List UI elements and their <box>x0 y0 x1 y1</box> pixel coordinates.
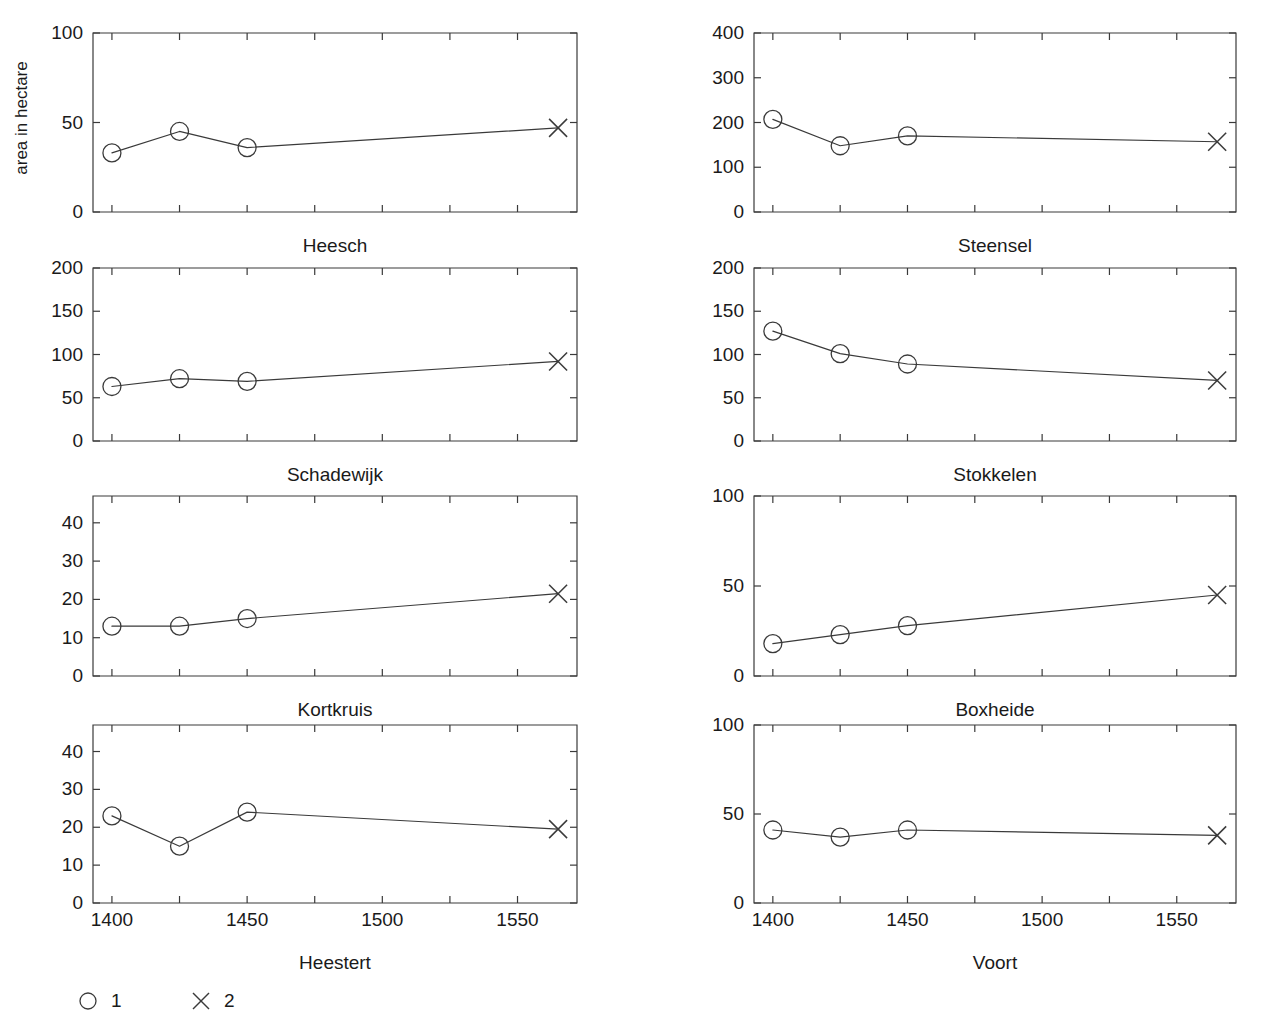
x-tick-label: 1550 <box>1156 909 1198 930</box>
y-tick-label: 40 <box>62 512 83 533</box>
x-tick-label: 1400 <box>91 909 133 930</box>
panel-title-heesch: Heesch <box>303 235 367 256</box>
y-tick-label: 50 <box>723 575 744 596</box>
series-line-1 <box>773 595 1217 644</box>
x-tick-label: 1550 <box>496 909 538 930</box>
y-tick-label: 100 <box>51 22 83 43</box>
chart-panel-kortkruis: 010203040Kortkruis <box>62 496 577 720</box>
legend-entry-1: 1 <box>80 990 122 1011</box>
y-tick-label: 0 <box>72 892 83 913</box>
legend-label-1: 1 <box>111 990 122 1011</box>
y-tick-label: 0 <box>72 665 83 686</box>
legend-label-2: 2 <box>224 990 235 1011</box>
y-tick-label: 100 <box>51 344 83 365</box>
chart-legend: 12 <box>80 990 235 1011</box>
y-tick-label: 30 <box>62 550 83 571</box>
panels-group: 050100Heesch0100200300400Steensel0501001… <box>51 22 1236 973</box>
plot-frame <box>93 496 577 676</box>
y-tick-label: 50 <box>723 803 744 824</box>
circle-marker-icon <box>80 993 96 1009</box>
y-tick-label: 100 <box>712 714 744 735</box>
y-tick-label: 0 <box>72 201 83 222</box>
plot-frame <box>754 496 1236 676</box>
series-line-1 <box>112 361 558 386</box>
y-tick-label: 0 <box>733 430 744 451</box>
x-tick-label: 1500 <box>361 909 403 930</box>
y-tick-label: 100 <box>712 344 744 365</box>
y-tick-label: 200 <box>712 112 744 133</box>
y-tick-label: 40 <box>62 741 83 762</box>
figure-root: 050100Heesch0100200300400Steensel0501001… <box>0 0 1271 1036</box>
panel-title-kortkruis: Kortkruis <box>298 699 373 720</box>
y-tick-label: 0 <box>72 430 83 451</box>
y-tick-label: 50 <box>62 112 83 133</box>
y-tick-label: 30 <box>62 778 83 799</box>
y-tick-label: 0 <box>733 201 744 222</box>
chart-panel-boxheide: 050100Boxheide <box>712 485 1236 720</box>
y-tick-label: 0 <box>733 665 744 686</box>
y-tick-label: 150 <box>712 300 744 321</box>
y-tick-label: 400 <box>712 22 744 43</box>
plot-frame <box>754 725 1236 903</box>
series-line-1 <box>773 331 1217 380</box>
x-tick-label: 1450 <box>226 909 268 930</box>
panel-title-steensel: Steensel <box>958 235 1032 256</box>
y-tick-label: 100 <box>712 156 744 177</box>
chart-panel-heesch: 050100Heesch <box>51 22 577 256</box>
x-tick-label: 1500 <box>1021 909 1063 930</box>
chart-panel-stokkelen: 050100150200Stokkelen <box>712 257 1236 485</box>
y-tick-label: 10 <box>62 854 83 875</box>
y-tick-label: 150 <box>51 300 83 321</box>
panel-title-boxheide: Boxheide <box>955 699 1034 720</box>
y-tick-label: 0 <box>733 892 744 913</box>
y-tick-label: 300 <box>712 67 744 88</box>
chart-panel-schadewijk: 050100150200Schadewijk <box>51 257 577 485</box>
plot-frame <box>754 33 1236 212</box>
plot-frame <box>93 268 577 441</box>
y-tick-label: 20 <box>62 816 83 837</box>
y-axis-title: area in hectare <box>12 61 31 174</box>
y-tick-label: 20 <box>62 588 83 609</box>
y-axis-title-group: area in hectare <box>12 61 31 174</box>
y-tick-label: 100 <box>712 485 744 506</box>
y-tick-label: 10 <box>62 627 83 648</box>
chart-panel-heestert: 0102030401400145015001550Heestert <box>62 725 577 973</box>
panel-title-voort: Voort <box>973 952 1018 973</box>
multi-panel-line-chart: 050100Heesch0100200300400Steensel0501001… <box>0 0 1271 1036</box>
y-tick-label: 50 <box>62 387 83 408</box>
x-tick-label: 1400 <box>752 909 794 930</box>
panel-title-stokkelen: Stokkelen <box>953 464 1036 485</box>
y-tick-label: 50 <box>723 387 744 408</box>
series-line-1 <box>773 119 1217 145</box>
chart-panel-steensel: 0100200300400Steensel <box>712 22 1236 256</box>
series-line-1 <box>773 830 1217 837</box>
plot-frame <box>93 33 577 212</box>
legend-entry-2: 2 <box>193 990 235 1011</box>
y-tick-label: 200 <box>51 257 83 278</box>
plot-frame <box>93 725 577 903</box>
panel-title-heestert: Heestert <box>299 952 372 973</box>
chart-panel-voort: 0501001400145015001550Voort <box>712 714 1236 973</box>
x-tick-label: 1450 <box>886 909 928 930</box>
plot-frame <box>754 268 1236 441</box>
series-line-1 <box>112 812 558 846</box>
series-line-1 <box>112 594 558 627</box>
y-tick-label: 200 <box>712 257 744 278</box>
panel-title-schadewijk: Schadewijk <box>287 464 384 485</box>
